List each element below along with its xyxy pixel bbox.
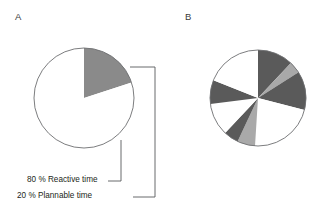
leader-line-reactive <box>108 140 121 181</box>
panel-a-pie <box>34 48 134 148</box>
leader-line-plannable <box>130 67 155 197</box>
callout-label-reactive-time: 80 % Reactive time <box>27 176 98 184</box>
panel-b-pie <box>210 50 306 146</box>
figure-root: A B 80 % Reactive time 20 % Plannable ti… <box>0 0 325 216</box>
callout-label-plannable-time: 20 % Plannable time <box>17 192 92 200</box>
